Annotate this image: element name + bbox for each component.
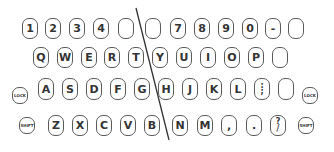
key-b[interactable]: B: [144, 115, 160, 136]
key-e[interactable]: E: [81, 47, 97, 68]
key-label: T: [132, 52, 140, 63]
key-l[interactable]: L: [230, 78, 246, 100]
key-label: F: [114, 84, 122, 95]
key-o[interactable]: O: [224, 47, 240, 68]
key-label: LOCK: [14, 94, 26, 98]
key-7[interactable]: 7: [170, 18, 186, 39]
key-v[interactable]: V: [120, 115, 136, 136]
key-label: A: [42, 84, 51, 95]
key-n[interactable]: N: [172, 115, 188, 136]
key-label: B: [148, 120, 156, 131]
key-label: S: [66, 84, 74, 95]
key-h[interactable]: H: [158, 78, 174, 100]
key-x[interactable]: X: [72, 115, 88, 136]
key-label: Y: [156, 52, 164, 63]
key-blank[interactable]: [118, 18, 134, 39]
split-keyboard-diagram: 12347890-QWERTYUIOPLOCKASDFGHJKL:;LOCKSH…: [0, 0, 334, 152]
key-label: Q: [36, 52, 45, 63]
key-w[interactable]: W: [57, 47, 73, 68]
key-label: K: [210, 84, 219, 95]
key-blank[interactable]: [278, 78, 294, 100]
key-label-lower: ;: [260, 89, 263, 95]
key-label: O: [227, 52, 236, 63]
key-lock[interactable]: LOCK: [12, 87, 28, 104]
key-1[interactable]: 1: [22, 18, 38, 39]
key-y[interactable]: Y: [152, 47, 168, 68]
key-label: R: [108, 52, 116, 63]
key-label: 3: [73, 23, 81, 34]
key-label: 2: [49, 23, 57, 34]
key-f[interactable]: F: [110, 78, 126, 100]
key-label: E: [85, 52, 93, 63]
key-comma[interactable]: ,: [221, 115, 237, 136]
key-3[interactable]: 3: [69, 18, 85, 39]
key-label: M: [200, 120, 211, 131]
key-g[interactable]: G: [134, 78, 150, 100]
key-label: 7: [174, 23, 182, 34]
key-blank[interactable]: [288, 18, 304, 39]
key-blank[interactable]: [272, 47, 288, 68]
key-colon[interactable]: :;: [254, 78, 270, 100]
key-lock[interactable]: LOCK: [302, 87, 318, 104]
key-label: :;: [260, 83, 263, 96]
key-q[interactable]: Q: [33, 47, 49, 68]
key-label: P: [252, 52, 260, 63]
key-minus[interactable]: -: [265, 18, 281, 39]
key-label: H: [161, 84, 170, 95]
key-period[interactable]: .: [246, 115, 262, 136]
key-label: G: [137, 84, 146, 95]
key-label: -: [271, 23, 276, 34]
key-label: .: [252, 120, 256, 131]
key-i[interactable]: I: [200, 47, 216, 68]
key-label: C: [100, 120, 108, 131]
key-label: V: [124, 120, 133, 131]
key-k[interactable]: K: [206, 78, 222, 100]
key-blank[interactable]: [145, 18, 161, 39]
key-label: 9: [222, 23, 230, 34]
key-label: L: [234, 84, 241, 95]
key-2[interactable]: 2: [45, 18, 61, 39]
key-label: SHIFT: [299, 124, 312, 128]
key-shift[interactable]: SHIFT: [298, 117, 314, 134]
key-8[interactable]: 8: [194, 18, 210, 39]
key-label: X: [76, 120, 84, 131]
key-label-lower: /: [277, 126, 280, 132]
key-label: SHIFT: [20, 124, 33, 128]
key-label: U: [180, 52, 189, 63]
key-d[interactable]: D: [86, 78, 102, 100]
key-label: N: [175, 120, 184, 131]
key-label: 8: [198, 23, 206, 34]
key-z[interactable]: Z: [48, 115, 64, 136]
key-c[interactable]: C: [96, 115, 112, 136]
key-label: ?/: [276, 119, 281, 132]
key-r[interactable]: R: [104, 47, 120, 68]
key-question[interactable]: ?/: [270, 115, 286, 136]
key-m[interactable]: M: [197, 115, 213, 136]
key-label: 4: [97, 23, 105, 34]
key-label: D: [89, 84, 98, 95]
key-a[interactable]: A: [38, 78, 54, 100]
key-4[interactable]: 4: [93, 18, 109, 39]
key-j[interactable]: J: [182, 78, 198, 100]
key-label: 0: [246, 23, 254, 34]
key-p[interactable]: P: [248, 47, 264, 68]
key-9[interactable]: 9: [218, 18, 234, 39]
key-shift[interactable]: SHIFT: [19, 117, 35, 134]
key-label: ,: [227, 120, 231, 131]
key-u[interactable]: U: [176, 47, 192, 68]
key-label: W: [59, 52, 71, 63]
key-label: I: [206, 52, 210, 63]
key-label: LOCK: [304, 94, 316, 98]
key-label: J: [188, 84, 192, 95]
key-s[interactable]: S: [62, 78, 78, 100]
key-0[interactable]: 0: [242, 18, 258, 39]
key-label: Z: [52, 120, 60, 131]
key-t[interactable]: T: [128, 47, 144, 68]
key-label: 1: [26, 23, 34, 34]
